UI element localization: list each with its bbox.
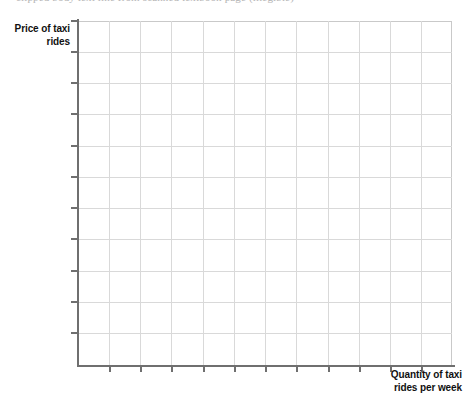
gridline-vertical [234,21,235,365]
chart-figure: Price of taxi rides Quantity of taxi rid… [0,0,475,409]
gridline-vertical [203,21,204,365]
x-axis-tick [109,365,111,372]
y-axis-tick [71,51,78,53]
gridline-horizontal [78,52,452,53]
y-axis-tick [71,113,78,115]
gridline-horizontal [78,333,452,334]
gridlines [78,21,452,365]
y-axis-tick [71,20,78,22]
plot-area[interactable] [78,21,452,365]
gridline-horizontal [78,239,452,240]
gridline-vertical [296,21,297,365]
x-axis-tick [140,365,142,372]
gridline-vertical [140,21,141,365]
gridline-vertical [328,21,329,365]
y-axis-title: Price of taxi rides [0,23,70,48]
x-axis-tick [203,365,205,372]
y-axis-tick [71,207,78,209]
x-axis-title-line-1: Quantity of taxi [312,369,462,382]
gridline-vertical [171,21,172,365]
y-axis-tick [71,176,78,178]
gridline-horizontal [78,177,452,178]
y-axis-tick [71,270,78,272]
gridline-horizontal [78,208,452,209]
x-axis-title-line-2: rides per week [312,382,462,395]
x-axis-tick [171,365,173,372]
y-axis-title-line-1: Price of taxi [0,23,70,36]
x-axis-tick [234,365,236,372]
gridline-horizontal [78,146,452,147]
gridline-horizontal [78,302,452,303]
grid-edge-right [451,21,452,365]
x-axis-tick [296,365,298,372]
gridline-horizontal [78,83,452,84]
y-axis-tick [71,145,78,147]
grid-edge-top [78,21,452,22]
gridline-vertical [265,21,266,365]
y-axis-title-line-2: rides [0,36,70,49]
gridline-vertical [421,21,422,365]
y-axis-tick [71,332,78,334]
y-axis-line [77,19,79,367]
gridline-vertical [109,21,110,365]
x-axis-title: Quantity of taxi rides per week [312,369,462,394]
x-axis-tick [265,365,267,372]
y-axis-tick [71,82,78,84]
gridline-horizontal [78,271,452,272]
y-axis-tick [71,301,78,303]
gridline-horizontal [78,114,452,115]
gridline-vertical [359,21,360,365]
gridline-vertical [390,21,391,365]
y-axis-tick [71,238,78,240]
